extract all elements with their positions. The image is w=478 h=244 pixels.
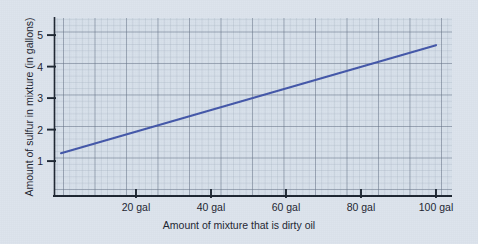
grid-major (54, 18, 452, 196)
x-tick-label-60: 60 gal (272, 201, 301, 213)
plot-area (54, 18, 452, 196)
x-tick-label-40: 40 gal (197, 201, 226, 213)
x-tick-label-80: 80 gal (347, 201, 376, 213)
y-tick-label-5: 5 (37, 29, 43, 41)
y-tick-label-3: 3 (37, 92, 43, 104)
y-tick-label-2: 2 (37, 124, 43, 136)
x-tick-label-20: 20 gal (122, 201, 151, 213)
y-tick-label-1: 1 (37, 155, 43, 167)
chart-figure: 5 4 3 2 1 20 gal 40 gal 60 gal 80 gal 10… (0, 0, 478, 244)
y-axis-title: Amount of sulfur in mixture (in gallons) (23, 17, 35, 196)
y-tick-label-4: 4 (37, 61, 43, 73)
x-tick-label-100: 100 gal (419, 201, 453, 213)
x-axis-title: Amount of mixture that is dirty oil (163, 219, 315, 231)
